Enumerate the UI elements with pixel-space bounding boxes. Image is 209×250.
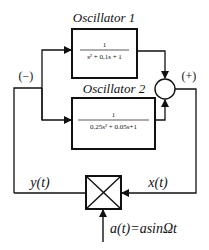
oscillator-1-title: Oscillator 1 [73,10,135,25]
input-signal-label: x(t) [147,175,168,191]
oscillator-2-title: Oscillator 2 [83,81,146,96]
oscillator-1-denominator: s² + 0,1s + 1 [87,53,122,61]
modulation-signal-label: a(t)=asinΩt [110,221,178,237]
oscillator-1-block: Oscillator 1 1 s² + 0,1s + 1 [72,10,137,78]
block-diagram: Oscillator 1 1 s² + 0,1s + 1 Oscillator … [0,0,209,250]
output-signal-label: y(t) [28,175,50,191]
arrow-to-oscillator-2 [42,88,71,120]
arrow-oscillator-2-to-sum [155,100,165,120]
oscillator-2-block: Oscillator 2 1 0.25s² + 0.05s+1 [72,81,155,149]
oscillator-2-denominator: 0.25s² + 0.05s+1 [90,123,137,131]
oscillator-2-numerator: 1 [112,111,116,119]
arrow-to-oscillator-1 [42,50,71,120]
arrow-oscillator-1-to-sum [137,51,165,78]
summing-circle [155,79,175,99]
feedback-sign-label: (−) [19,69,34,83]
oscillator-1-numerator: 1 [103,41,107,49]
sum-sign-label: (+) [182,69,197,83]
